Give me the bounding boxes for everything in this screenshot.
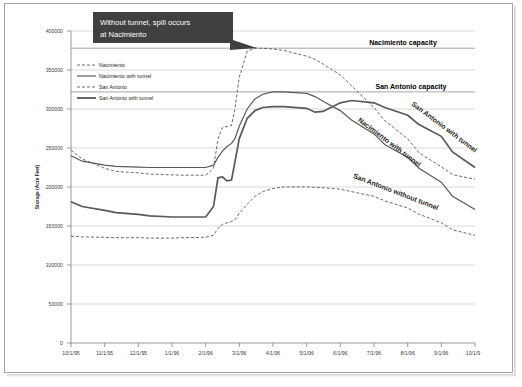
legend-item-san-antonio: San Antonio: [77, 84, 127, 90]
y-tick-label: 0: [60, 340, 63, 346]
y-tick-label: 100000: [46, 262, 63, 268]
spill-callout: Without tunnel, spill occurs at Nacimien…: [93, 12, 257, 50]
legend-label: San Antonio with tunnel: [99, 95, 153, 101]
y-tick-label: 400000: [46, 28, 63, 34]
san-antonio-with-tunnel-label: San Antonio with tunnel: [411, 100, 479, 154]
y-tick-label: 50000: [49, 301, 64, 307]
legend-item-nacimiento-with-tunnel: Nacimiento with tunnel: [77, 73, 151, 79]
nacimiento-capacity-label: Nacimiento capacity: [369, 39, 437, 47]
x-tick-label: 10/1/9: [466, 350, 481, 356]
san-antonio-capacity-label: San Antonio capacity: [376, 83, 447, 91]
legend-label: San Antonio: [99, 84, 127, 90]
legend-label: Nacimiento: [99, 62, 125, 68]
chart-frame: 400000 350000 300000 250000 200000 15000…: [4, 3, 513, 373]
callout-line1: Without tunnel, spill occurs: [100, 18, 191, 27]
x-tick-label: 12/1/95: [130, 350, 147, 356]
callout-line2: at Nacimiento: [100, 30, 146, 39]
x-tick-label: 5/1/96: [299, 350, 314, 356]
san-antonio-without-tunnel-label: San Antonio without tunnel: [352, 172, 439, 211]
x-tick-label: 3/1/96: [232, 350, 247, 356]
y-tick-label: 150000: [46, 223, 63, 229]
x-tick-label: 8/1/96: [400, 350, 415, 356]
x-tick-label: 4/1/96: [266, 350, 281, 356]
x-tick-label: 7/1/96: [367, 350, 382, 356]
x-tick-marks: [71, 343, 475, 347]
x-tick-label: 1/1/96: [165, 350, 180, 356]
y-tick-marks: [67, 31, 71, 343]
y-tick-label: 350000: [46, 67, 63, 73]
x-tick-label: 11/1/95: [96, 350, 113, 356]
y-axis-title: Storage (Acre Feet): [35, 164, 40, 209]
legend-label: Nacimiento with tunnel: [99, 73, 151, 79]
chart-area: 400000 350000 300000 250000 200000 15000…: [5, 4, 514, 374]
frame-shadow-bottom: [7, 374, 515, 377]
legend: Nacimiento Nacimiento with tunnel San An…: [77, 62, 153, 101]
screenshot-root: 400000 350000 300000 250000 200000 15000…: [0, 0, 522, 387]
frame-shadow-right: [514, 6, 517, 376]
x-tick-labels: 10/1/95 11/1/95 12/1/95 1/1/96 2/1/96 3/…: [62, 350, 480, 356]
x-tick-label: 10/1/95: [62, 350, 79, 356]
y-tick-label: 200000: [46, 184, 63, 190]
gridlines: [71, 31, 475, 304]
y-tick-labels: 400000 350000 300000 250000 200000 15000…: [46, 28, 63, 346]
legend-item-san-antonio-with-tunnel: San Antonio with tunnel: [77, 95, 153, 101]
chart-svg: 400000 350000 300000 250000 200000 15000…: [5, 4, 514, 374]
legend-item-nacimiento: Nacimiento: [77, 62, 125, 68]
x-tick-label: 2/1/96: [198, 350, 213, 356]
y-tick-label: 300000: [46, 106, 63, 112]
x-tick-label: 6/1/96: [333, 350, 348, 356]
y-tick-label: 250000: [46, 145, 63, 151]
x-tick-label: 9/1/96: [434, 350, 449, 356]
series-nacimiento-with-tunnel: [71, 92, 475, 210]
